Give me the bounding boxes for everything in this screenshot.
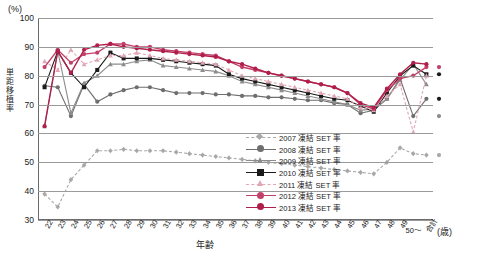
legend-item: 2012 凍結 SET 率 [246,190,366,202]
data-point [411,114,415,118]
data-point [227,59,231,63]
y-tick-label: 70 [25,100,34,110]
data-point [148,48,152,52]
data-point [293,97,297,101]
series-line [45,148,427,207]
data-point [240,94,244,98]
data-point [332,85,336,89]
data-point [372,105,376,109]
legend-item: 2010 凍結 SET 率 [246,167,366,179]
data-point [227,155,232,160]
legend-label: 2012 凍結 SET 率 [279,190,341,201]
data-point [214,92,218,96]
data-point [69,71,73,75]
data-point [174,150,179,155]
data-point [266,71,270,75]
data-point [55,67,60,72]
data-point [253,94,257,98]
legend-item: 2009 凍結 SET 率 [246,155,366,167]
data-point [424,62,428,66]
data-point [240,157,245,162]
gridline [38,18,433,19]
legend-label: 2011 凍結 SET 率 [279,179,340,190]
data-point [424,152,429,157]
legend-label: 2009 凍結 SET 率 [279,155,341,166]
data-point [371,171,376,176]
data-point [240,62,244,66]
data-point [200,152,205,157]
data-point [69,61,73,65]
data-point [161,49,165,53]
plot-area: 1009080706050403022232425262728293031323… [38,18,433,220]
x-tick-label: 50～ [406,224,421,235]
legend-swatch [246,191,276,201]
gridline [38,47,433,48]
data-point [134,50,139,55]
data-point [398,77,402,81]
data-point [266,95,270,99]
data-point [148,148,153,153]
legend-swatch [246,179,276,189]
data-point [82,48,86,52]
data-point [134,148,139,153]
data-point [56,85,60,89]
data-point [148,85,152,89]
series-line [45,79,427,117]
data-point [411,151,416,156]
data-point [411,61,415,65]
data-point [319,82,323,86]
data-point [121,88,125,92]
data-point [293,77,297,81]
series-lines [38,18,433,220]
series-line [45,51,427,112]
data-point [42,65,46,69]
legend-item: 2008 凍結 SET 率 [246,144,366,156]
data-point [161,88,165,92]
data-point [306,79,310,83]
data-point [187,52,191,56]
y-axis-title: 単距移植率 [2,68,14,113]
data-point [56,49,60,53]
gridline [38,162,433,163]
data-point [135,85,139,89]
data-point [437,153,441,157]
y-tick-label: 40 [25,186,34,196]
data-point [174,51,178,55]
legend-item: 2011 凍結 SET 率 [246,178,366,190]
data-point [253,66,257,70]
data-point [200,53,204,57]
data-point [253,76,258,81]
legend-item: 2013 凍結 SET 率 [246,202,366,214]
x-axis-unit: (歳) [437,225,452,238]
legend-label: 2013 凍結 SET 率 [279,202,341,213]
data-point [43,85,47,89]
data-point [121,147,126,152]
legend-swatch [246,144,276,154]
legend-item: 2007 凍結 SET 率 [246,132,366,144]
legend-swatch [246,133,276,143]
data-point [187,91,191,95]
x-axis-title: 年齢 [196,238,214,251]
data-point [424,97,428,101]
data-point [42,59,47,64]
y-tick-label: 80 [25,71,34,81]
legend-label: 2007 凍結 SET 率 [279,132,341,143]
data-point [82,85,86,89]
legend-swatch [246,202,276,212]
data-point [306,98,310,102]
data-point [95,57,100,62]
gridline [38,133,433,134]
legend-swatch [246,168,276,178]
data-point [69,47,74,52]
legend-label: 2008 凍結 SET 率 [279,144,341,155]
data-point [437,72,441,76]
chart-legend: 2007 凍結 SET 率2008 凍結 SET 率2009 凍結 SET 率2… [246,132,366,213]
data-point [161,148,166,153]
legend-swatch [246,156,276,166]
data-point [292,85,297,90]
y-tick-label: 30 [25,215,34,225]
data-point [385,87,389,91]
data-point [227,92,231,96]
data-point [108,92,112,96]
gridline [38,191,433,192]
